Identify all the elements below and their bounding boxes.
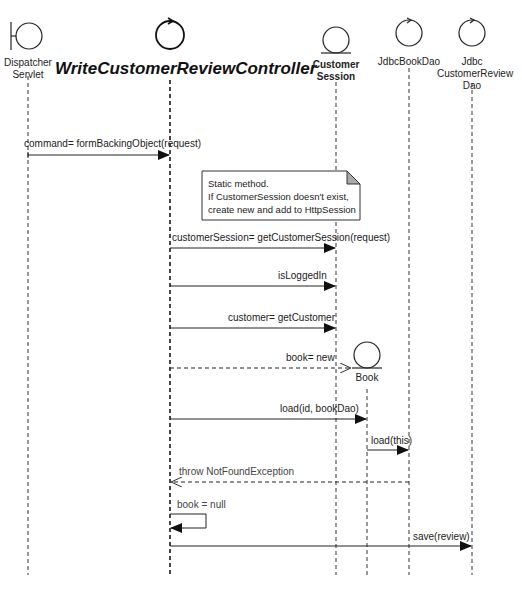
message-label: isLoggedIn xyxy=(278,270,327,282)
participant-jdbc-customer-review-dao: Jdbc CustomerReview Dao xyxy=(437,56,507,92)
control-icon xyxy=(156,18,184,49)
participant-label: Session xyxy=(306,71,366,83)
self-message-arrow xyxy=(170,514,206,528)
participant-label: Dispatcher xyxy=(0,57,58,69)
participant-book: Book xyxy=(347,372,387,384)
note-line: If CustomerSession doesn't exist, xyxy=(208,190,360,203)
entity-icon xyxy=(352,342,382,368)
control-icon xyxy=(396,18,422,46)
note: Static method. If CustomerSession doesn'… xyxy=(202,171,360,220)
message-label: load(id, bookDao) xyxy=(280,403,359,415)
participant-label: Dao xyxy=(437,80,507,92)
control-icon xyxy=(459,18,485,46)
entity-icon xyxy=(321,27,351,53)
participant-dispatcher-servlet: Dispatcher Servlet xyxy=(0,57,58,81)
participant-jdbc-book-dao: JdbcBookDao xyxy=(377,56,441,68)
participant-label: Servlet xyxy=(0,69,58,81)
message-label: book= new xyxy=(286,352,335,364)
message-label: book = null xyxy=(177,499,226,511)
message-label: command= formBackingObject(request) xyxy=(24,138,201,150)
participant-label: CustomerReview xyxy=(437,68,507,80)
message-label: customer= getCustomer xyxy=(228,312,335,324)
message-label: customerSession= getCustomerSession(requ… xyxy=(172,232,390,244)
participant-label: Jdbc xyxy=(437,56,507,68)
note-line: Static method. xyxy=(208,177,360,190)
note-line: create new and add to HttpSession xyxy=(208,203,360,216)
participant-controller: WriteCustomerReviewController xyxy=(55,59,316,79)
participant-customer-session: Customer Session xyxy=(306,59,366,83)
participant-label: Customer xyxy=(306,59,366,71)
message-label: load(this) xyxy=(371,435,412,447)
message-label: save(review) xyxy=(413,531,470,543)
boundary-icon xyxy=(11,22,42,50)
message-label: throw NotFoundException xyxy=(179,466,294,478)
